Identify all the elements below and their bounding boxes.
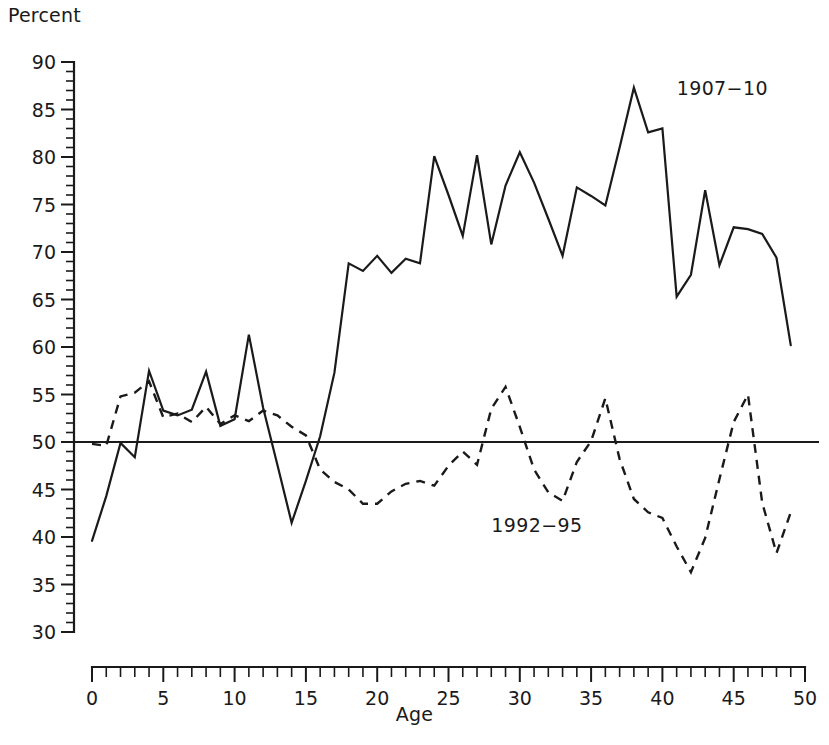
- data-series-group: [92, 88, 791, 573]
- y-tick-label: 85: [32, 99, 56, 121]
- y-tick-label: 40: [32, 526, 56, 548]
- series-label-1907-10: 1907−10: [677, 77, 768, 99]
- y-tick-label: 80: [32, 146, 56, 168]
- y-tick-label: 70: [32, 241, 56, 263]
- y-axis-title: Percent: [8, 4, 81, 26]
- line-chart-plot: 30354045505560657075808590 0510152025303…: [0, 0, 829, 745]
- series-line-1992-95: [92, 381, 791, 572]
- y-tick-label: 90: [32, 51, 56, 73]
- y-tick-label: 55: [32, 384, 56, 406]
- x-axis-title: Age: [0, 703, 829, 725]
- chart-figure: Percent Age 30354045505560657075808590 0…: [0, 0, 829, 745]
- y-tick-label: 65: [32, 289, 56, 311]
- series-label-1992-95: 1992−95: [491, 514, 582, 536]
- series-label-group: 1907−101992−95: [491, 77, 768, 536]
- y-tick-label: 60: [32, 336, 56, 358]
- y-tick-label: 30: [32, 621, 56, 643]
- y-tick-label: 45: [32, 479, 56, 501]
- y-axis: 30354045505560657075808590: [32, 51, 74, 643]
- y-tick-label: 75: [32, 194, 56, 216]
- series-line-1907-10: [92, 88, 791, 541]
- y-tick-label: 50: [32, 431, 56, 453]
- y-tick-label: 35: [32, 574, 56, 596]
